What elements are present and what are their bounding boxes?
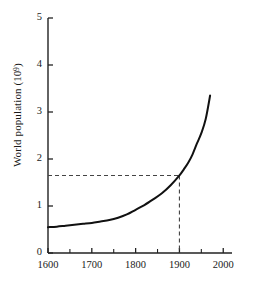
y-axis-major-ticks	[48, 18, 53, 253]
x-tick-label: 1800	[119, 259, 153, 270]
x-tick-label: 1600	[31, 259, 65, 270]
y-tick-label: 2	[28, 152, 42, 163]
y-axis-title-base: World population (10	[11, 71, 23, 167]
population-growth-figure: World population (109) 012345 1600170018…	[0, 0, 256, 283]
y-axis-title: World population (109)	[8, 30, 26, 200]
axes-group	[48, 18, 232, 253]
x-tick-label: 1700	[75, 259, 109, 270]
y-tick-label: 0	[28, 246, 42, 257]
chart-canvas	[0, 0, 256, 283]
x-tick-label: 1900	[162, 259, 196, 270]
population-curve	[48, 96, 210, 228]
y-axis-title-close: )	[11, 63, 23, 67]
x-tick-label: 2000	[206, 259, 240, 270]
y-tick-label: 3	[28, 105, 42, 116]
y-tick-label: 5	[28, 11, 42, 22]
y-tick-label: 1	[28, 199, 42, 210]
x-axis-major-ticks	[48, 248, 223, 253]
guide-lines-group	[48, 175, 179, 253]
y-tick-label: 4	[28, 58, 42, 69]
